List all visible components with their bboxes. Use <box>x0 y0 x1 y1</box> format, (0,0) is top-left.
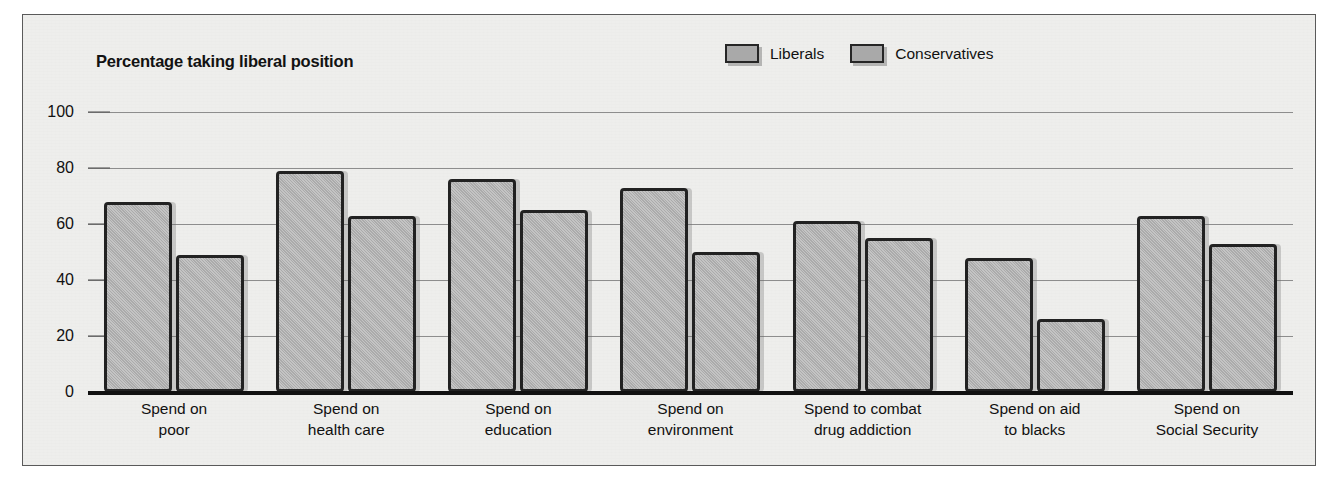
bar-group <box>949 112 1121 392</box>
x-axis-labels: Spend onpoorSpend onhealth careSpend one… <box>88 398 1293 441</box>
chart-legend: Liberals Conservatives <box>725 44 994 63</box>
bar-liberals-0[interactable] <box>104 202 172 392</box>
x-axis-label-6: Spend onSocial Security <box>1121 398 1293 441</box>
x-axis-label-2: Spend oneducation <box>432 398 604 441</box>
bar-group <box>604 112 776 392</box>
bar-conservatives-4[interactable] <box>865 238 933 392</box>
bar-group <box>260 112 432 392</box>
bar-liberals-4[interactable] <box>793 221 861 392</box>
x-axis-label-line: to blacks <box>949 419 1121 440</box>
bar-group <box>432 112 604 392</box>
bar-conservatives-2[interactable] <box>520 210 588 392</box>
x-axis-label-line: health care <box>260 419 432 440</box>
x-axis-label-4: Spend to combatdrug addiction <box>777 398 949 441</box>
x-axis-label-line: drug addiction <box>777 419 949 440</box>
legend-entry-liberals[interactable]: Liberals <box>725 44 824 63</box>
bar-conservatives-5[interactable] <box>1037 319 1105 392</box>
bar-group <box>1121 112 1293 392</box>
plot-area: 020406080100 <box>88 112 1293 392</box>
bar-liberals-1[interactable] <box>276 171 344 392</box>
chart-figure: Percentage taking liberal position Liber… <box>0 0 1338 488</box>
y-tick-label-20: 20 <box>56 327 74 345</box>
y-tick-label-100: 100 <box>47 103 74 121</box>
y-tick-label-60: 60 <box>56 215 74 233</box>
x-axis-label-5: Spend on aidto blacks <box>949 398 1121 441</box>
bar-group <box>777 112 949 392</box>
x-axis-label-3: Spend onenvironment <box>604 398 776 441</box>
legend-swatch-conservatives <box>850 44 884 63</box>
x-axis-label-line: environment <box>604 419 776 440</box>
y-tick-label-40: 40 <box>56 271 74 289</box>
x-axis-label-line: Spend on <box>432 398 604 419</box>
x-axis-label-line: education <box>432 419 604 440</box>
x-axis-line <box>88 391 1293 395</box>
bar-group <box>88 112 260 392</box>
x-axis-label-line: poor <box>88 419 260 440</box>
x-axis-label-line: Spend on <box>1121 398 1293 419</box>
bar-conservatives-1[interactable] <box>348 216 416 392</box>
x-axis-label-line: Spend on <box>260 398 432 419</box>
x-axis-label-0: Spend onpoor <box>88 398 260 441</box>
x-axis-label-line: Spend on <box>604 398 776 419</box>
bar-liberals-6[interactable] <box>1137 216 1205 392</box>
legend-entry-conservatives[interactable]: Conservatives <box>850 44 993 63</box>
x-axis-label-line: Spend on aid <box>949 398 1121 419</box>
bar-liberals-3[interactable] <box>620 188 688 392</box>
y-tick-label-80: 80 <box>56 159 74 177</box>
x-axis-label-line: Spend on <box>88 398 260 419</box>
bar-groups <box>88 112 1293 392</box>
y-tick-label-0: 0 <box>65 383 74 401</box>
bar-liberals-5[interactable] <box>965 258 1033 392</box>
bar-conservatives-3[interactable] <box>692 252 760 392</box>
x-axis-label-1: Spend onhealth care <box>260 398 432 441</box>
chart-title: Percentage taking liberal position <box>96 52 353 71</box>
bar-liberals-2[interactable] <box>448 179 516 392</box>
bar-conservatives-0[interactable] <box>176 255 244 392</box>
x-axis-label-line: Social Security <box>1121 419 1293 440</box>
x-axis-label-line: Spend to combat <box>777 398 949 419</box>
legend-label-conservatives: Conservatives <box>895 45 993 63</box>
bar-conservatives-6[interactable] <box>1209 244 1277 392</box>
legend-label-liberals: Liberals <box>770 45 824 63</box>
legend-swatch-liberals <box>725 44 759 63</box>
